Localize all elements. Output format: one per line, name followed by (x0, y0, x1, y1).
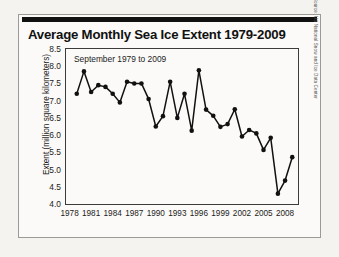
x-tick-label: 1981 (82, 209, 100, 218)
y-axis-ticks: 8.58.07.57.06.56.05.55.04.54.0 (33, 48, 61, 238)
y-tick-label: 7.5 (35, 78, 61, 88)
x-tick-label: 1984 (104, 209, 122, 218)
y-tick-label: 6.5 (35, 113, 61, 123)
x-tick-label: 2008 (276, 209, 294, 218)
source-credit: Source: US National Snow and Ice Data Ce… (313, 0, 318, 99)
card-top-rule (22, 17, 317, 22)
y-tick-label: 5.0 (35, 165, 61, 175)
y-tick-label: 7.0 (35, 96, 61, 106)
x-tick-label: 2002 (233, 209, 251, 218)
y-tick-label: 5.5 (35, 147, 61, 157)
x-tick-label: 1993 (168, 209, 186, 218)
page-title: Average Monthly Sea Ice Extent 1979-2009 (28, 27, 316, 42)
x-tick-label: 1987 (125, 209, 143, 218)
y-tick-label: 4.0 (35, 199, 61, 209)
x-tick-label: 1990 (147, 209, 165, 218)
x-tick-label: 2005 (254, 209, 272, 218)
x-tick-label: 1996 (190, 209, 208, 218)
chart-card: Average Monthly Sea Ice Extent 1979-2009… (18, 14, 321, 238)
x-tick-label: 1999 (211, 209, 229, 218)
y-tick-label: 8.5 (35, 44, 61, 54)
y-tick-label: 8.0 (35, 61, 61, 71)
y-tick-label: 4.5 (35, 182, 61, 192)
y-tick-label: 6.0 (35, 130, 61, 140)
page-background: Average Monthly Sea Ice Extent 1979-2009… (0, 0, 339, 257)
x-axis-ticks: 1978198119841987199019931996199920022005… (65, 48, 299, 238)
x-tick-label: 1978 (60, 209, 78, 218)
chart-plot-wrapper: Extent (million square kilometers) 8.58.… (19, 48, 322, 238)
